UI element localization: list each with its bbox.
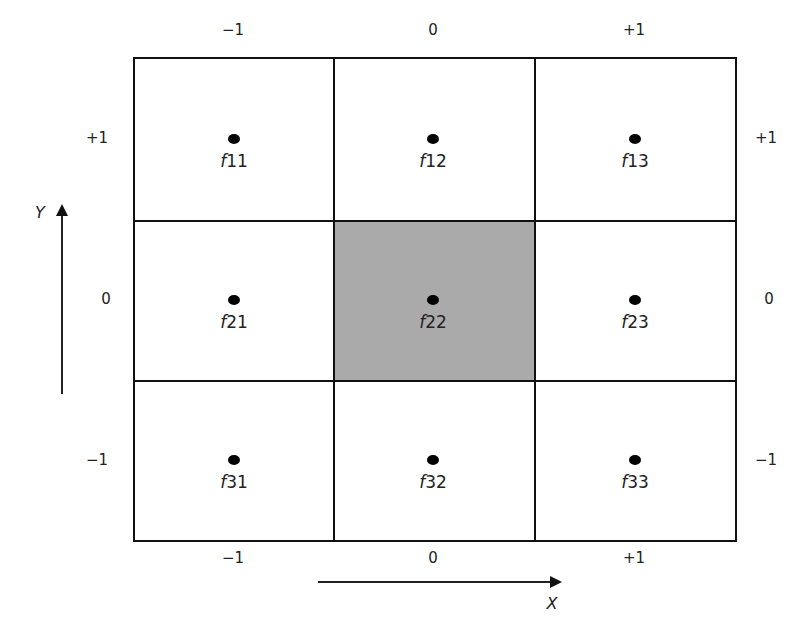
right-y-label: 0 <box>764 290 774 308</box>
cell-label-f31: f31 <box>220 472 248 492</box>
y-axis-arrow-icon <box>50 198 80 398</box>
cell-label-f33: f33 <box>621 472 649 492</box>
grid-divider-h1 <box>134 220 736 222</box>
x-axis-arrow-icon <box>316 572 566 592</box>
top-x-label: +1 <box>623 21 645 39</box>
x-axis-label: X <box>547 594 558 613</box>
bottom-x-label: +1 <box>623 549 645 567</box>
cell-label-f23: f23 <box>621 312 649 332</box>
pixel-dot-f13 <box>629 134 641 144</box>
bottom-x-label: −1 <box>222 549 244 567</box>
right-y-label: +1 <box>755 129 777 147</box>
cell-label-f11: f11 <box>220 151 248 171</box>
pixel-dot-f33 <box>629 455 641 465</box>
right-y-label: −1 <box>755 451 777 469</box>
left-y-label: 0 <box>101 290 111 308</box>
pixel-dot-f21 <box>228 295 240 305</box>
pixel-dot-f12 <box>427 134 439 144</box>
pixel-dot-f11 <box>228 134 240 144</box>
cell-label-f32: f32 <box>419 472 447 492</box>
grid-divider-h2 <box>134 380 736 382</box>
top-x-label: 0 <box>428 21 438 39</box>
cell-label-f22: f22 <box>419 312 447 332</box>
y-axis-label: Y <box>35 203 45 222</box>
left-y-label: +1 <box>86 129 108 147</box>
grid-divider-v1 <box>333 58 335 541</box>
bottom-x-label: 0 <box>428 549 438 567</box>
pixel-dot-f31 <box>228 455 240 465</box>
grid-divider-v2 <box>534 58 536 541</box>
pixel-dot-f22 <box>427 295 439 305</box>
left-y-label: −1 <box>86 451 108 469</box>
cell-label-f13: f13 <box>621 151 649 171</box>
cell-label-f12: f12 <box>419 151 447 171</box>
cell-label-f21: f21 <box>220 312 248 332</box>
pixel-dot-f23 <box>629 295 641 305</box>
pixel-dot-f32 <box>427 455 439 465</box>
top-x-label: −1 <box>222 21 244 39</box>
